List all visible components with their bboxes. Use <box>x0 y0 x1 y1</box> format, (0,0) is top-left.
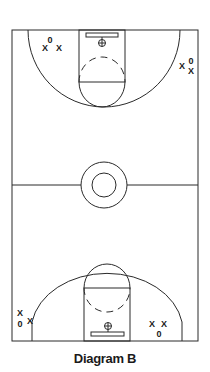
player-offense: 0 <box>156 329 161 339</box>
player-defense: X <box>188 66 194 76</box>
free-throw-circle-solid-bottom <box>84 264 130 288</box>
player-defense: X <box>149 319 155 329</box>
free-throw-circle-solid-top <box>79 82 125 107</box>
player-defense: X <box>17 308 23 318</box>
free-throw-circle-dashed-bottom <box>84 288 130 312</box>
hoop-icon <box>105 323 112 333</box>
diagram-caption: Diagram B <box>74 351 136 366</box>
player-defense: X <box>42 43 48 53</box>
basketball-court-diagram: 0 X X X 0 X X 0 X X X 0 Diagram B <box>0 0 210 372</box>
backboard-bottom <box>91 332 124 336</box>
hoop-icon <box>99 37 106 47</box>
player-defense: X <box>27 316 33 326</box>
backboard-top <box>86 33 118 37</box>
player-offense: 0 <box>17 319 22 329</box>
player-defense: X <box>179 61 185 71</box>
center-circle-outer <box>81 162 127 208</box>
player-offense: 0 <box>47 35 52 45</box>
free-throw-circle-dashed-top <box>79 57 125 82</box>
center-circle-inner <box>92 173 116 197</box>
player-offense: 0 <box>188 56 193 66</box>
player-defense: X <box>161 319 167 329</box>
player-defense: X <box>56 43 62 53</box>
